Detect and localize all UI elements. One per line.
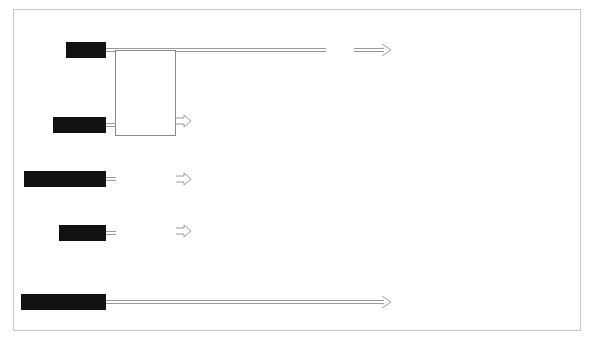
- connector-wtccc: [106, 177, 116, 181]
- source-label-wtccc: [24, 171, 106, 187]
- source-label-dgi: [53, 117, 106, 133]
- arrow-irs1-2010: [354, 48, 384, 52]
- arrow-head-icon: [382, 295, 392, 309]
- arrow-2007-diagram-icon: [176, 114, 192, 128]
- arrow-decode-2010: [106, 300, 384, 304]
- arrow-2007-diagram-icon: [176, 224, 192, 238]
- connector-fusion: [106, 231, 116, 235]
- arrow-2007-diagram-icon: [176, 172, 192, 186]
- source-label-dgdg: [66, 42, 106, 58]
- arrow-head-icon: [382, 43, 392, 57]
- group-2007-body: [115, 50, 176, 136]
- source-label-fusion: [59, 225, 106, 241]
- source-label-decode: [21, 294, 106, 310]
